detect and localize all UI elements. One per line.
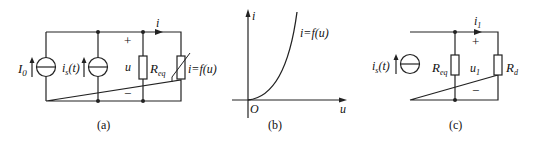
current-source-icon xyxy=(89,58,108,77)
circuit-a-wires xyxy=(46,32,181,101)
current-i-label: i xyxy=(156,16,159,30)
curve-label: i=f(u) xyxy=(300,26,329,40)
resistor-rd-label: Rd xyxy=(505,60,519,77)
characteristic-curve xyxy=(248,12,297,100)
up-arrow-icon xyxy=(82,57,87,77)
source-i0-label: I0 xyxy=(17,61,27,78)
junction-dot xyxy=(96,99,100,103)
voltage-u-label: u xyxy=(125,60,131,74)
junction-dot xyxy=(141,99,145,103)
figure-a-circuit: I0 is(t) + − u Req i i=f(u) (a) xyxy=(17,16,217,132)
junction-dot xyxy=(141,30,145,34)
current-source-icon xyxy=(401,55,420,74)
caption-a: (a) xyxy=(97,118,110,132)
voltage-u1-label: u1 xyxy=(470,61,480,77)
minus-sign: − xyxy=(472,83,479,98)
resistor-req-label: Req xyxy=(431,60,448,77)
up-arrow-icon xyxy=(394,54,399,74)
y-axis-label: i xyxy=(252,9,255,23)
figure-c-circuit: is(t) Req i1 + − u1 Rd (c) xyxy=(372,14,519,132)
plus-sign: + xyxy=(124,33,131,48)
junction-dot xyxy=(96,30,100,34)
junction-dot xyxy=(453,30,457,34)
origin-label: O xyxy=(250,102,259,116)
y-axis-arrow-icon xyxy=(246,9,251,17)
resistor-icon xyxy=(451,55,459,75)
current-i1-label: i1 xyxy=(474,14,481,30)
minus-sign: − xyxy=(124,86,131,101)
source-is-label: is(t) xyxy=(62,61,80,77)
nonlinear-label: i=f(u) xyxy=(188,62,217,76)
junction-dot xyxy=(453,98,457,102)
resistor-icon xyxy=(139,56,147,79)
up-arrow-icon xyxy=(30,57,35,77)
source-is-label: is(t) xyxy=(372,59,390,75)
caption-c: (c) xyxy=(449,118,462,132)
plus-sign: + xyxy=(472,34,479,49)
circuit-figure: I0 is(t) + − u Req i i=f(u) (a) xyxy=(0,0,533,141)
x-axis-label: u xyxy=(340,102,346,116)
resistor-req-label: Req xyxy=(149,61,166,78)
caption-b: (b) xyxy=(268,118,282,132)
figure-b-graph: i u O i=f(u) (b) xyxy=(232,9,347,132)
current-source-icon xyxy=(37,58,56,77)
resistor-icon xyxy=(494,55,502,75)
